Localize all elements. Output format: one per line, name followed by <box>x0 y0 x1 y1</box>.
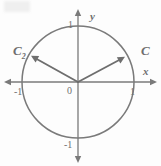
x-axis-right-arrow-icon <box>150 79 157 85</box>
y-axis-label: y <box>90 11 95 22</box>
y-axis-tick-label-bottom: -1 <box>64 140 72 150</box>
unit-circle-figure: y x 1 -1 -1 1 0 C2 C <box>0 0 161 166</box>
y-axis-top-arrow-icon <box>75 9 81 16</box>
point-label-c2-letter: C <box>13 43 22 58</box>
y-axis-tick-label-top: 1 <box>68 20 73 30</box>
point-label-c1-letter: C <box>141 43 150 58</box>
x-axis-tick-label-right: 1 <box>130 87 135 97</box>
x-axis-left-arrow-icon <box>4 79 11 85</box>
unit-circle-graphic <box>0 0 161 166</box>
x-axis-tick-label-left: -1 <box>14 87 22 97</box>
point-label-c1: C <box>141 44 150 61</box>
point-label-c2-subscript: 2 <box>22 52 26 61</box>
x-axis-label: x <box>143 66 149 77</box>
ray-to-c1 <box>78 59 122 83</box>
y-axis-bottom-arrow-icon <box>75 156 81 163</box>
point-label-c2: C2 <box>13 44 26 61</box>
origin-label: 0 <box>67 86 72 96</box>
ray-to-c2 <box>34 58 78 83</box>
